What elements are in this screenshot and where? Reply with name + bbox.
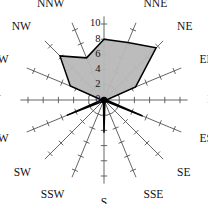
direction-label-ne: NE	[177, 20, 192, 32]
direction-label-ese: ESE	[199, 132, 208, 144]
direction-label-n: N	[100, 0, 109, 1]
radial-tick-label-8: 8	[95, 33, 100, 44]
radial-tick-label-4: 4	[95, 63, 101, 74]
direction-label-nw: NW	[12, 20, 31, 32]
radial-tick-label-6: 6	[95, 48, 100, 59]
direction-label-s: S	[101, 196, 107, 204]
direction-label-ene: ENE	[199, 53, 208, 65]
direction-label-wnw: WNW	[0, 53, 9, 65]
wind-rose-chart: NNNENEENEEESESESSESSSWSWWSWWWNWNWNNW 024…	[0, 0, 208, 204]
direction-label-wsw: WSW	[0, 132, 9, 144]
direction-label-nne: NNE	[144, 0, 168, 9]
direction-label-ssw: SSW	[41, 188, 65, 200]
direction-label-e: E	[207, 93, 208, 105]
direction-label-sse: SSE	[144, 188, 164, 200]
direction-label-sw: SW	[14, 166, 31, 178]
center-hub	[101, 97, 107, 103]
direction-label-se: SE	[177, 166, 190, 178]
wind-rose-polygon	[60, 39, 156, 132]
wind-rose-svg: NNNENEENEEESESESSESSSWSWWSWWWNWNWNNW 024…	[0, 0, 208, 204]
direction-label-w: W	[0, 93, 1, 105]
radial-tick-label-10: 10	[90, 17, 101, 28]
direction-label-nnw: NNW	[37, 0, 65, 9]
radial-tick-label-2: 2	[95, 78, 100, 89]
radial-tick-label-0: 0	[95, 93, 100, 104]
